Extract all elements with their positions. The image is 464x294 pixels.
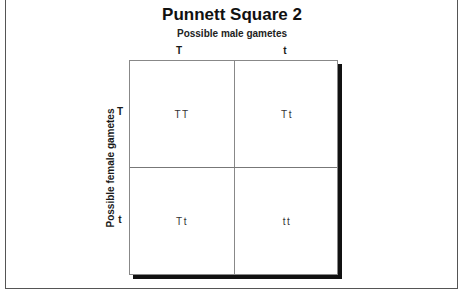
cell-TT: TT: [130, 61, 234, 167]
cell-Tt-bottom: Tt: [130, 168, 234, 274]
cell-Tt-top: Tt: [235, 61, 339, 167]
male-gametes-label: Possible male gametes: [0, 28, 464, 39]
column-label-t: t: [275, 45, 295, 56]
row-label-t: t: [115, 214, 125, 225]
punnett-grid: TT Tt Tt tt: [129, 60, 338, 275]
female-gametes-label: Possible female gametes: [105, 109, 116, 228]
diagram-title: Punnett Square 2: [0, 5, 464, 25]
cell-tt: tt: [235, 168, 339, 274]
column-label-T: T: [169, 45, 189, 56]
row-label-T: T: [115, 106, 125, 117]
